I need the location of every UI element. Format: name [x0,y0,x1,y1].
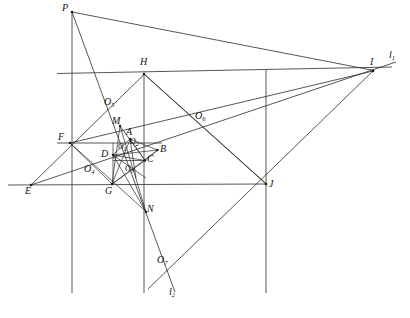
label-l1-sub: 1 [392,54,395,61]
vertex-P [71,11,74,14]
label-O4-sub: 4 [91,168,94,175]
label-O4: O4 [84,164,94,174]
label-O2-base: O [130,137,136,146]
label-l2-sub: 2 [172,291,175,298]
line-F-to-N [70,143,147,212]
label-A: A [126,127,132,137]
label-N: N [147,204,154,214]
label-O2-sub: 2 [136,140,139,147]
vertex-J [265,183,268,186]
label-O2: O2 [130,138,139,146]
label-H: H [140,57,147,67]
label-B: B [160,144,166,154]
label-O1-sub: 1 [123,145,126,152]
geometry-figure: P H I l1 O5 O6 F M A B D C O2 O1 O3 O4 E… [0,0,410,318]
line-I-through-J-to-l2 [148,71,373,289]
label-G: G [105,186,112,196]
axis-lines [8,12,392,293]
label-P: P [62,3,68,13]
vertex-C [144,159,146,161]
label-O3-sub: 3 [131,167,134,174]
major-construction-lines [31,12,396,292]
label-O1: O1 [118,143,127,151]
label-O6: O6 [195,111,205,121]
vertex-I [372,70,375,73]
vertex-B [156,149,158,151]
label-M: M [112,116,120,126]
label-l1: l1 [389,50,395,60]
vertex-F [69,142,72,145]
geometry-canvas [0,0,410,318]
label-J: J [269,179,273,189]
vertex-D [112,154,114,156]
label-I: I [370,57,373,67]
label-E: E [25,186,31,196]
horizontal-line-upper [57,67,392,74]
line-F-to-I [70,71,373,143]
line-P-to-I [72,12,374,71]
vertex-H [143,73,146,76]
label-O7: O7 [157,255,167,265]
label-O7-sub: 7 [164,259,167,266]
label-l2: l2 [169,287,175,297]
label-D: D [101,149,108,159]
label-O3-base: O [125,164,131,173]
line-H-to-O6-extension [144,74,266,184]
label-O5: O5 [104,97,114,107]
label-O5-sub: 5 [111,101,114,108]
label-O6-sub: 6 [202,115,205,122]
label-F: F [58,132,64,142]
label-C: C [147,154,154,164]
label-O3: O3 [125,165,134,173]
